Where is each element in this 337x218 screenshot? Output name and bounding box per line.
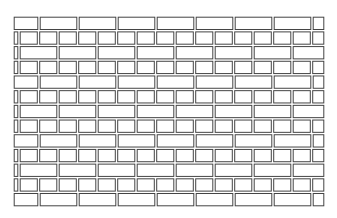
brick [137,164,174,176]
brick [196,120,213,132]
brick [98,32,115,44]
brick [313,149,324,161]
brick [274,194,311,206]
brick [98,179,115,191]
brick [235,76,272,88]
brick [118,61,135,73]
brick [137,149,154,161]
brick [14,32,18,44]
brick [235,120,252,132]
brick [235,32,252,44]
brick [176,91,193,103]
brick [40,17,77,29]
brick [40,76,77,88]
brick [313,194,324,206]
brick [59,91,76,103]
brick [40,179,57,191]
brick [20,61,37,73]
brick [59,32,76,44]
brick [98,149,115,161]
brick [14,105,18,117]
brick [176,61,193,73]
brick [235,179,252,191]
brick [14,91,18,103]
brick [274,32,291,44]
brick [118,17,155,29]
brick [157,135,194,147]
brick [313,91,324,103]
brick [196,76,233,88]
brick [176,105,213,117]
brick [293,91,310,103]
brick [40,149,57,161]
brick [293,47,324,59]
brick [254,164,291,176]
brick [20,149,37,161]
brick [79,61,96,73]
brick [274,91,291,103]
brick [254,91,271,103]
brick [254,32,271,44]
brick [137,91,154,103]
brick [215,61,232,73]
brick [235,149,252,161]
brick [313,76,324,88]
brick [14,17,38,29]
brick [20,120,37,132]
brick [40,135,77,147]
brick [20,179,37,191]
brick [176,120,193,132]
brick [215,91,232,103]
brick [293,179,310,191]
brick [40,32,57,44]
brick [293,149,310,161]
brick [235,61,252,73]
brick [313,61,324,73]
brick [215,32,232,44]
brick [293,120,310,132]
brick [274,17,311,29]
brick [40,194,77,206]
brick [196,194,233,206]
brick [157,17,194,29]
brick [157,32,174,44]
brick [59,47,96,59]
brick [14,179,18,191]
brick [14,194,38,206]
brick [14,47,18,59]
brick [254,47,291,59]
brick [196,61,213,73]
brick [274,120,291,132]
brick [137,179,154,191]
brick [59,164,96,176]
brick [215,164,252,176]
brick [20,47,57,59]
brick [254,61,271,73]
brick [313,120,324,132]
brick [40,61,57,73]
brick [313,17,324,29]
brick [157,149,174,161]
brick [118,149,135,161]
brick [137,47,174,59]
brick [59,120,76,132]
brick [98,164,135,176]
brick [235,194,272,206]
brick [79,179,96,191]
brick [79,91,96,103]
brick [215,179,232,191]
brick [157,91,174,103]
brick [59,61,76,73]
brick [274,76,311,88]
brick [59,149,76,161]
brick [137,105,174,117]
brick [196,135,233,147]
brick [157,194,194,206]
brick [137,32,154,44]
brick [59,179,76,191]
brick [196,32,213,44]
brick [59,105,96,117]
brick [254,105,291,117]
brick [293,32,310,44]
brick [118,120,135,132]
